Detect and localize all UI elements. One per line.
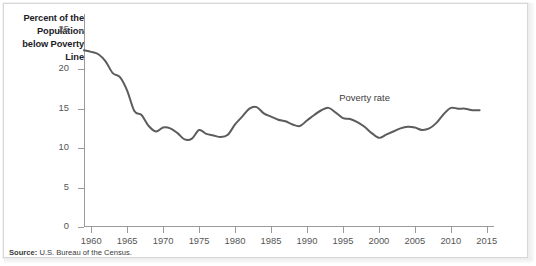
x-tick-label-1995: 1995 [333,235,354,246]
source-value: U.S. Bureau of the Census. [37,248,132,257]
x-tick-1985 [271,227,272,233]
plot-area: 0510152025 19601965197019751980198519901… [84,14,494,227]
source-label: Source: [9,248,37,257]
x-tick-1975 [199,227,200,233]
y-axis-title-line-2: Population [6,25,84,38]
source-note: Source: U.S. Bureau of the Census. [9,248,132,257]
panel-shadow-right [528,3,534,261]
x-tick-label-2015: 2015 [476,235,497,246]
x-tick-1995 [343,227,344,233]
y-tick-label-25: 25 [59,23,69,34]
y-tick-label-20: 20 [59,62,69,73]
x-tick-2015 [487,227,488,233]
poverty-rate-annotation: Poverty rate [339,92,390,103]
x-tick-label-2000: 2000 [368,235,389,246]
x-tick-2010 [451,227,452,233]
x-tick-1960 [91,227,92,233]
x-tick-1980 [235,227,236,233]
x-tick-1965 [127,227,128,233]
poverty-rate-line [84,50,480,140]
y-axis-title-line-4: Line [6,51,84,64]
y-tick-label-5: 5 [64,181,69,192]
y-tick-label-0: 0 [64,220,69,231]
y-axis-title: Percent of the Population below Poverty … [6,12,84,64]
x-tick-label-1990: 1990 [297,235,318,246]
x-tick-label-1985: 1985 [261,235,282,246]
y-axis-title-line-1: Percent of the [6,12,84,25]
x-tick-1990 [307,227,308,233]
y-tick-label-10: 10 [59,141,69,152]
panel-shadow-bottom [4,258,532,263]
y-tick-0: 0 [78,227,84,228]
x-tick-label-1980: 1980 [225,235,246,246]
x-tick-label-1975: 1975 [189,235,210,246]
x-tick-2000 [379,227,380,233]
poverty-rate-line-chart [84,14,494,227]
y-axis-title-line-3: below Poverty [6,38,84,51]
y-tick-label-15: 15 [59,102,69,113]
x-tick-label-1970: 1970 [153,235,174,246]
x-tick-label-1965: 1965 [117,235,138,246]
x-tick-label-1960: 1960 [81,235,102,246]
x-tick-2005 [415,227,416,233]
x-tick-label-2005: 2005 [404,235,425,246]
x-tick-label-2010: 2010 [440,235,461,246]
poverty-rate-figure: Percent of the Population below Poverty … [0,0,536,266]
x-tick-1970 [163,227,164,233]
